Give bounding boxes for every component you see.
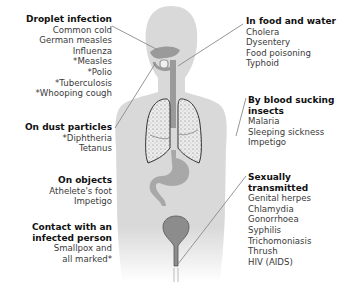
group-title: In food and water bbox=[246, 16, 336, 27]
group-droplet-infection: Droplet infection Common cold German mea… bbox=[26, 14, 112, 99]
group-food-and-water: In food and water Cholera Dysentery Food… bbox=[246, 16, 336, 69]
disease-item: German measles bbox=[26, 35, 112, 46]
disease-item: Malaria bbox=[248, 116, 334, 127]
group-sexually-transmitted: Sexually transmitted Genital herpes Chla… bbox=[248, 172, 311, 267]
disease-item: Thrush bbox=[248, 246, 311, 257]
disease-item: Syphilis bbox=[248, 225, 311, 236]
group-title-line-1: Contact with an bbox=[32, 222, 112, 233]
disease-item: Genital herpes bbox=[248, 193, 311, 204]
disease-item: Tetanus bbox=[25, 143, 112, 154]
disease-item: Trichomoniasis bbox=[248, 236, 311, 247]
disease-item: *Diphtheria bbox=[25, 133, 112, 144]
disease-item: Athelete's foot bbox=[49, 186, 112, 197]
disease-item: *Polio bbox=[26, 67, 112, 78]
disease-item: Chlamydia bbox=[248, 204, 311, 215]
group-title: On dust particles bbox=[25, 122, 112, 133]
disease-item: Influenza bbox=[26, 46, 112, 57]
disease-item: *Measles bbox=[26, 56, 112, 67]
disease-item: Smallpox and bbox=[32, 243, 112, 254]
group-title-line-2: insects bbox=[248, 106, 334, 117]
disease-item: *Tuberculosis bbox=[26, 78, 112, 89]
group-dust-particles: On dust particles *Diphtheria Tetanus bbox=[25, 122, 112, 154]
group-title-line-2: infected person bbox=[32, 233, 112, 244]
disease-item: Cholera bbox=[246, 27, 336, 38]
disease-item: HIV (AIDS) bbox=[248, 257, 311, 268]
group-blood-sucking-insects: By blood sucking insects Malaria Sleepin… bbox=[248, 95, 334, 148]
group-title-line-2: transmitted bbox=[248, 183, 311, 194]
group-contact-infected-person: Contact with an infected person Smallpox… bbox=[32, 222, 112, 264]
disease-item: Typhoid bbox=[246, 58, 336, 69]
group-title: On objects bbox=[49, 175, 112, 186]
disease-item: Gonorrhoea bbox=[248, 214, 311, 225]
disease-item: *Whooping cough bbox=[26, 88, 112, 99]
disease-item: Sleeping sickness bbox=[248, 127, 334, 138]
disease-item: Food poisoning bbox=[246, 48, 336, 59]
disease-item: Dysentery bbox=[246, 37, 336, 48]
group-title-line-1: By blood sucking bbox=[248, 95, 334, 106]
disease-item: all marked* bbox=[32, 254, 112, 265]
group-title-line-1: Sexually bbox=[248, 172, 311, 183]
disease-item: Common cold bbox=[26, 25, 112, 36]
group-title: Droplet infection bbox=[26, 14, 112, 25]
disease-item: Impetigo bbox=[248, 137, 334, 148]
group-on-objects: On objects Athelete's foot Impetigo bbox=[49, 175, 112, 207]
disease-item: Impetigo bbox=[49, 196, 112, 207]
